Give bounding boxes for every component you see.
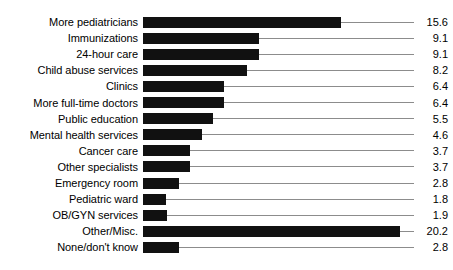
value-label: 8.2 [418,62,448,78]
leader-line [179,247,414,248]
value-label: 2.8 [418,239,448,255]
bar [143,226,400,237]
leader-line [259,54,414,55]
category-label: Clinics [0,78,138,94]
leader-line [166,199,414,200]
value-label: 15.6 [418,14,448,30]
leader-line [247,70,414,71]
bar-track [143,127,414,143]
category-label: Child abuse services [0,62,138,78]
value-label: 2.8 [418,175,448,191]
chart-row: Clinics6.4 [0,78,453,94]
value-label: 5.5 [418,111,448,127]
bar [143,97,224,108]
category-label: Mental health services [0,127,138,143]
value-label: 1.9 [418,207,448,223]
leader-line [224,102,414,103]
category-label: More pediatricians [0,14,138,30]
bar-track [143,95,414,111]
value-label: 4.6 [418,127,448,143]
leader-line [213,118,414,119]
chart-row: Pediatric ward1.8 [0,191,453,207]
value-label: 3.7 [418,159,448,175]
bar [143,210,167,221]
category-label: 24-hour care [0,46,138,62]
value-label: 3.7 [418,143,448,159]
value-label: 6.4 [418,78,448,94]
bar [143,145,190,156]
category-label: Pediatric ward [0,191,138,207]
bar [143,81,224,92]
chart-row: Emergency room2.8 [0,175,453,191]
category-label: Public education [0,111,138,127]
bar [143,161,190,172]
leader-line [341,22,414,23]
value-label: 6.4 [418,95,448,111]
leader-line [167,215,414,216]
category-label: Other/Misc. [0,223,138,239]
bar-track [143,239,414,255]
chart-row: Immunizations9.1 [0,30,453,46]
bar-track [143,175,414,191]
bar [143,194,166,205]
category-label: Emergency room [0,175,138,191]
bar-track [143,78,414,94]
leader-line [202,134,414,135]
horizontal-bar-chart: More pediatricians15.6Immunizations9.124… [0,0,453,270]
bar [143,65,247,76]
bar-track [143,207,414,223]
bar [143,242,179,253]
bar-track [143,111,414,127]
chart-row: More pediatricians15.6 [0,14,453,30]
chart-row: 24-hour care9.1 [0,46,453,62]
leader-line [259,38,414,39]
category-label: Immunizations [0,30,138,46]
bar [143,113,213,124]
value-label: 9.1 [418,46,448,62]
leader-line [179,183,414,184]
chart-row: More full-time doctors6.4 [0,95,453,111]
bar-track [143,46,414,62]
bar-track [143,191,414,207]
value-label: 20.2 [418,223,448,239]
category-label: Cancer care [0,143,138,159]
bar-track [143,143,414,159]
chart-row: Public education5.5 [0,111,453,127]
leader-line [224,86,414,87]
chart-row: Mental health services4.6 [0,127,453,143]
chart-row: OB/GYN services1.9 [0,207,453,223]
chart-row: Cancer care3.7 [0,143,453,159]
category-label: More full-time doctors [0,95,138,111]
category-label: OB/GYN services [0,207,138,223]
bar [143,33,259,44]
chart-row: Other specialists3.7 [0,159,453,175]
bar [143,17,341,28]
chart-row: None/don't know2.8 [0,239,453,255]
leader-line [190,150,414,151]
bar [143,129,202,140]
chart-row: Other/Misc.20.2 [0,223,453,239]
bar [143,178,179,189]
leader-line [400,231,414,232]
bar [143,49,259,60]
leader-line [190,166,414,167]
bar-track [143,223,414,239]
bar-track [143,62,414,78]
bar-track [143,30,414,46]
value-label: 1.8 [418,191,448,207]
bar-track [143,14,414,30]
value-label: 9.1 [418,30,448,46]
category-label: None/don't know [0,239,138,255]
bar-track [143,159,414,175]
category-label: Other specialists [0,159,138,175]
chart-row: Child abuse services8.2 [0,62,453,78]
